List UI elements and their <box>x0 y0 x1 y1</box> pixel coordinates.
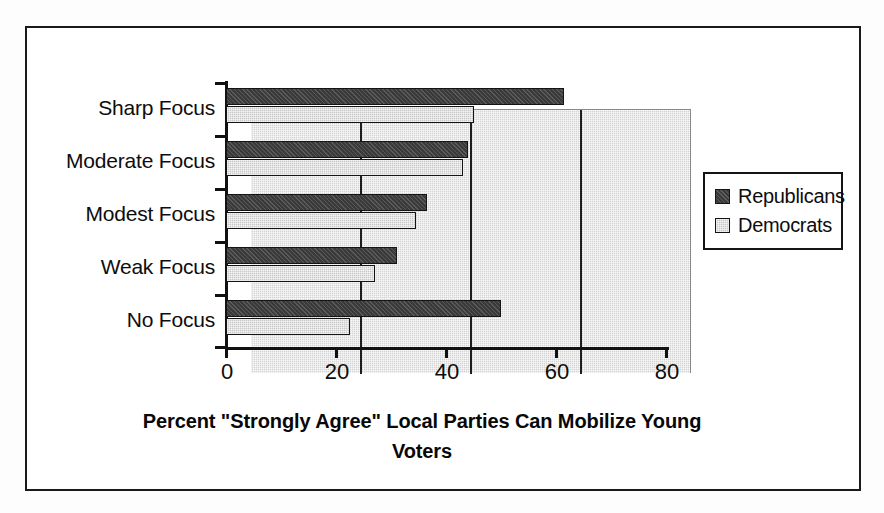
x-tick-label-60: 60 <box>527 359 587 385</box>
x-axis-title: Percent "Strongly Agree" Local Parties C… <box>62 406 782 466</box>
y-tick-1 <box>215 135 227 138</box>
y-tick-label-moderate-focus: Moderate Focus <box>37 149 215 173</box>
page-canvas: Sharp Focus Moderate Focus Modest Focus … <box>0 0 884 513</box>
y-tick-label-no-focus: No Focus <box>37 308 215 332</box>
democrats-swatch-icon <box>715 218 730 233</box>
bar-republicans-moderate-focus <box>226 141 468 158</box>
gridline-40 <box>470 110 472 374</box>
y-tick-3 <box>215 241 227 244</box>
republicans-swatch-icon <box>715 189 730 204</box>
legend-label-democrats: Democrats <box>738 214 832 237</box>
x-tick-label-40: 40 <box>417 359 477 385</box>
bar-republicans-no-focus <box>226 300 501 317</box>
gridline-60 <box>580 110 582 374</box>
y-tick-label-weak-focus: Weak Focus <box>37 255 215 279</box>
y-tick-label-modest-focus: Modest Focus <box>37 202 215 226</box>
x-tick-20 <box>335 347 338 358</box>
x-tick-60 <box>555 347 558 358</box>
y-tick-4 <box>215 294 227 297</box>
y-tick-label-sharp-focus: Sharp Focus <box>37 96 215 120</box>
chart-legend: Republicans Democrats <box>703 172 843 250</box>
x-tick-label-0: 0 <box>197 359 257 385</box>
legend-item-republicans[interactable]: Republicans <box>715 182 833 211</box>
bar-democrats-modest-focus <box>226 212 416 229</box>
legend-item-democrats[interactable]: Democrats <box>715 211 833 240</box>
x-tick-label-80: 80 <box>637 359 697 385</box>
x-tick-label-20: 20 <box>307 359 367 385</box>
bar-democrats-no-focus <box>226 318 350 335</box>
y-tick-2 <box>215 188 227 191</box>
bar-republicans-sharp-focus <box>226 88 564 105</box>
x-tick-80 <box>665 347 668 358</box>
x-tick-40 <box>445 347 448 358</box>
bar-republicans-weak-focus <box>226 247 397 264</box>
bar-democrats-sharp-focus <box>226 106 474 123</box>
x-axis-title-line-1: Percent "Strongly Agree" Local Parties C… <box>62 406 782 436</box>
figure-frame: Sharp Focus Moderate Focus Modest Focus … <box>25 26 861 491</box>
legend-label-republicans: Republicans <box>738 185 845 208</box>
bar-republicans-modest-focus <box>226 194 427 211</box>
x-tick-0 <box>225 347 228 358</box>
x-axis-title-line-2: Voters <box>62 436 782 466</box>
bar-democrats-weak-focus <box>226 265 375 282</box>
bar-democrats-moderate-focus <box>226 159 463 176</box>
y-tick-0 <box>215 82 227 85</box>
